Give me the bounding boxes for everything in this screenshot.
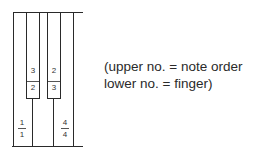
legend-line-1: (upper no. = note order: [104, 58, 242, 75]
black-key-divider: [48, 81, 60, 82]
black-key-2-finger: 3: [49, 84, 59, 92]
white-key-divider: [53, 98, 54, 147]
legend: (upper no. = note order lower no. = fing…: [104, 58, 242, 92]
black-key-divider: [27, 81, 39, 82]
white-key-1-note-order: 1: [17, 119, 27, 127]
fraction-bar: [61, 128, 69, 129]
white-key-divider: [13, 12, 14, 147]
white-key-1-finger: 1: [17, 131, 27, 139]
fraction-bar: [18, 128, 26, 129]
white-key-divider: [73, 12, 74, 147]
white-key-divider: [32, 98, 33, 147]
black-key-1-finger: 2: [28, 84, 38, 92]
legend-line-2: lower no. = finger): [104, 75, 242, 92]
black-key-2-note-order: 2: [49, 67, 59, 75]
white-key-2-finger: 4: [60, 131, 70, 139]
white-key-2-note-order: 4: [60, 119, 70, 127]
black-key-1-note-order: 3: [28, 67, 38, 75]
